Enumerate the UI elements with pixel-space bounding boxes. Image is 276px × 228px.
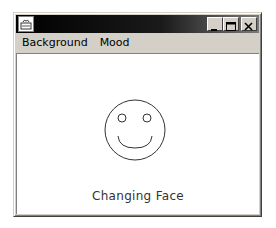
close-button[interactable] — [241, 17, 257, 31]
title-bar[interactable] — [16, 15, 259, 33]
minimize-button[interactable] — [207, 17, 223, 31]
menu-mood[interactable]: Mood — [94, 33, 136, 52]
content-panel: Changing Face — [16, 53, 259, 214]
close-icon — [242, 21, 256, 33]
maximize-icon — [224, 21, 238, 33]
minimize-icon — [208, 21, 222, 33]
java-app-icon[interactable] — [18, 16, 34, 32]
menu-bar: Background Mood — [16, 33, 259, 52]
app-window: Background Mood Changing Face — [13, 12, 262, 217]
maximize-button[interactable] — [223, 17, 239, 31]
caption-label: Changing Face — [17, 189, 259, 203]
menu-background[interactable]: Background — [16, 33, 94, 52]
smiley-face-icon — [103, 98, 167, 162]
